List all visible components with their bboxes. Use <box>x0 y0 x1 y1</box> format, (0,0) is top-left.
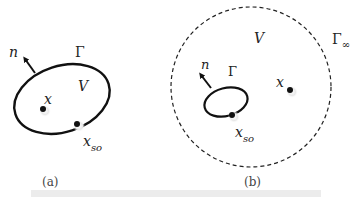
volume-label: V <box>78 78 90 94</box>
panel-b: n Γ V Γ∞ x xso (b) <box>171 7 350 189</box>
normal-arrow-icon <box>25 59 35 73</box>
source-point-label: xso <box>235 124 254 144</box>
volume-label: V <box>254 30 266 46</box>
caption-a: (a) <box>42 175 59 189</box>
caption-b: (b) <box>244 175 261 189</box>
normal-arrow-icon <box>201 75 211 88</box>
source-point-label: xso <box>83 133 102 153</box>
source-point-dot <box>229 112 235 118</box>
source-point-dot <box>74 121 80 127</box>
boundary-domain-figure: n Γ V x xso (a) n Γ V Γ∞ x xso <box>0 0 360 197</box>
normal-label: n <box>201 57 209 72</box>
interior-point-label: x <box>44 91 52 107</box>
boundary-label: Γ <box>75 44 85 60</box>
boundary-label: Γ <box>228 64 237 79</box>
exterior-point-label: x <box>276 74 284 90</box>
infinity-boundary-label: Γ∞ <box>332 31 350 50</box>
normal-label: n <box>9 44 18 60</box>
panel-a: n Γ V x xso (a) <box>5 44 119 189</box>
exterior-point-dot <box>287 87 293 93</box>
boundary-gamma-curve <box>201 83 251 121</box>
boundary-gamma-curve <box>5 52 119 145</box>
bottom-divider-bar <box>31 190 321 197</box>
